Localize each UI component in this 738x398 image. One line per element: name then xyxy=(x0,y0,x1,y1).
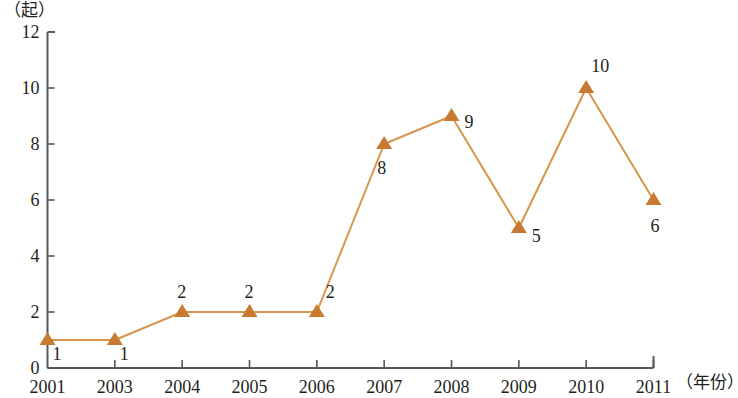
chart-canvas xyxy=(0,0,738,398)
x-axis-tick-label: 2006 xyxy=(287,378,347,396)
data-point-value-label: 8 xyxy=(377,159,386,177)
y-axis-tick-label: 8 xyxy=(10,135,40,153)
data-point-value-label: 2 xyxy=(326,283,335,301)
data-point-marker xyxy=(40,332,56,345)
data-point-value-label: 6 xyxy=(651,217,660,235)
y-axis-tick-label: 6 xyxy=(10,191,40,209)
line-chart: （起） （年份） 024681012 200120032004200520062… xyxy=(0,0,738,398)
x-axis-tick-label: 2011 xyxy=(624,378,684,396)
y-axis-tick-label: 4 xyxy=(10,247,40,265)
y-axis-tick-label: 0 xyxy=(10,359,40,377)
data-point-marker xyxy=(242,304,258,317)
y-axis-tick-label: 2 xyxy=(10,303,40,321)
y-axis-tick-label: 10 xyxy=(10,79,40,97)
x-axis-ticks xyxy=(115,360,654,368)
data-point-marker xyxy=(646,192,662,205)
x-axis-tick-label: 2004 xyxy=(152,378,212,396)
x-axis-tick-label: 2003 xyxy=(85,378,145,396)
data-point-value-label: 10 xyxy=(591,57,609,75)
x-axis-tick-label: 2010 xyxy=(556,378,616,396)
data-point-value-label: 5 xyxy=(532,227,541,245)
x-axis-tick-label: 2005 xyxy=(220,378,280,396)
x-axis-tick-label: 2001 xyxy=(18,378,78,396)
y-axis-tick-label: 12 xyxy=(10,23,40,41)
data-point-value-label: 1 xyxy=(53,345,62,363)
y-axis-ticks xyxy=(48,88,55,368)
x-axis-unit-label: （年份） xyxy=(676,374,738,391)
data-point-marker xyxy=(578,80,594,93)
data-point-value-label: 9 xyxy=(465,113,474,131)
x-axis-tick-label: 2008 xyxy=(422,378,482,396)
x-axis-tick-label: 2007 xyxy=(354,378,414,396)
data-point-marker xyxy=(309,304,325,317)
data-point-marker xyxy=(511,220,527,233)
y-axis-unit-label: （起） xyxy=(4,2,55,19)
x-axis-tick-label: 2009 xyxy=(489,378,549,396)
data-point-value-label: 1 xyxy=(120,345,129,363)
series-markers xyxy=(40,80,662,345)
data-point-marker xyxy=(174,304,190,317)
data-point-marker xyxy=(444,108,460,121)
data-point-value-label: 2 xyxy=(177,283,186,301)
series-line xyxy=(48,88,654,340)
data-point-value-label: 2 xyxy=(245,283,254,301)
